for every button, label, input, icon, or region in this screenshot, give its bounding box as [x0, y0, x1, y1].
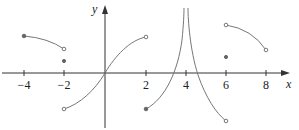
x-axis-arrow-icon	[281, 70, 290, 76]
closed-point	[144, 107, 148, 111]
x-tick-label: 2	[143, 78, 149, 92]
closed-point	[22, 34, 26, 38]
curve-segment-3	[146, 8, 184, 109]
x-tick-label: −4	[18, 78, 31, 92]
curve-segment-4	[188, 8, 226, 121]
open-point	[264, 48, 268, 52]
x-tick-label: 4	[183, 78, 189, 92]
open-point	[224, 119, 228, 123]
open-point	[62, 107, 66, 111]
open-point	[144, 35, 148, 39]
curve-segment-5	[226, 25, 266, 50]
x-tick-label: 6	[223, 78, 229, 92]
open-point	[224, 23, 228, 27]
x-tick-label: −2	[58, 78, 71, 92]
y-axis-label: y	[91, 2, 98, 16]
isolated-point	[62, 59, 65, 62]
open-point	[62, 47, 66, 51]
x-axis-label: x	[285, 77, 292, 91]
y-axis-arrow-icon	[102, 5, 108, 14]
curve-segment-1	[24, 36, 64, 49]
x-tick-label: 8	[263, 78, 269, 92]
function-graph: −4 −2 2 4 6 8 x y	[0, 0, 299, 130]
isolated-point	[224, 55, 227, 58]
